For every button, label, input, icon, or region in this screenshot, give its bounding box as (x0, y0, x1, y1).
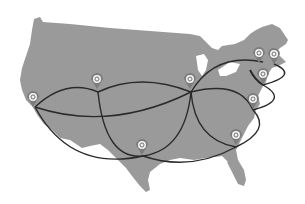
route-map (0, 0, 305, 204)
us-map-land (20, 17, 288, 192)
